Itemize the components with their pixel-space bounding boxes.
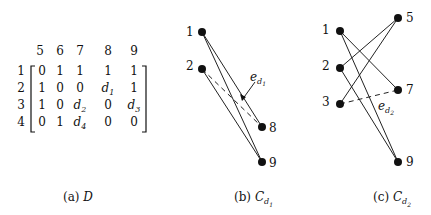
matrix-cell-d4: d4 [71,115,89,131]
matrix-cell: 1 [99,64,117,78]
matrix-d: 5 6 7 8 9 1 2 3 4 0 1 1 1 1 1 0 0 d1 1 1… [0,0,170,180]
node-label-1: 1 [186,25,194,39]
caption-a-symbol: D [83,190,93,204]
node-1 [336,27,344,35]
node-label-9: 9 [406,155,414,169]
matrix-cell: 1 [33,81,51,95]
caption-b-prefix: (b) [234,190,251,204]
matrix-cell: 1 [125,81,143,95]
dashed-edge-3-7 [340,90,398,104]
graph-c-d1: 1 2 8 9 ed1 [170,0,300,185]
node-label-1: 1 [322,23,330,37]
node-1 [198,28,206,36]
caption-c: (c) Cd2 [373,190,411,208]
caption-b-symbol: Cd1 [255,190,273,204]
node-label-9: 9 [269,156,277,170]
matrix-cell: 0 [51,81,69,95]
caption-b: (b) Cd1 [234,190,273,208]
matrix-cell: 1 [51,64,69,78]
matrix-cell: 0 [33,115,51,129]
annotation-e-d1: ed1 [250,70,266,87]
matrix-cell: 1 [125,64,143,78]
annotation-e-d2: ed2 [378,99,394,116]
matrix-cell-d1: d1 [99,81,117,97]
matrix-cell-d3: d3 [125,98,143,114]
node-7 [394,86,402,94]
matrix-cell: 0 [33,64,51,78]
matrix-cell-d2: d2 [71,98,89,114]
node-label-2: 2 [322,59,330,73]
matrix-cell: 0 [71,81,89,95]
caption-a: (a) D [63,190,93,204]
node-5 [394,14,402,22]
node-label-5: 5 [406,11,414,25]
node-label-2: 2 [186,59,194,73]
node-3 [336,100,344,108]
node-label-7: 7 [406,83,414,97]
node-8 [258,123,266,131]
matrix-cell: 0 [99,98,117,112]
node-label-3: 3 [322,95,330,109]
node-9 [258,158,266,166]
caption-a-prefix: (a) [63,190,80,204]
node-label-8: 8 [269,121,277,135]
matrix-cell: 1 [33,98,51,112]
matrix-cell: 0 [125,115,143,129]
matrix-cell: 1 [71,64,89,78]
node-2 [336,64,344,72]
matrix-cell: 0 [99,115,117,129]
matrix-cell: 1 [51,115,69,129]
caption-c-symbol: Cd2 [393,190,411,204]
node-2 [198,65,206,73]
edge-1-9 [202,32,262,162]
graph-c-d2: 1 2 3 5 7 9 ed2 [300,0,431,185]
caption-c-prefix: (c) [373,190,389,204]
matrix-cell: 0 [51,98,69,112]
node-9 [394,158,402,166]
